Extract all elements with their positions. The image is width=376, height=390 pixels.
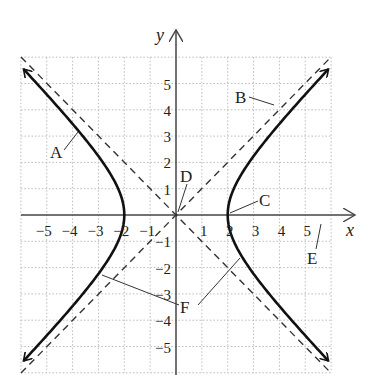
x-tick-label: 3 — [252, 223, 260, 239]
x-axis-label: x — [345, 220, 354, 240]
leader-b — [249, 97, 274, 105]
hyperbola-figure: −5−4−3−2−112345 54321−1−2−3−4−5 x y A B … — [0, 0, 376, 390]
x-tick-label: −5 — [36, 223, 52, 239]
x-tick-label: 4 — [278, 223, 286, 239]
y-tick-label: 4 — [164, 103, 172, 119]
label-f: F — [180, 298, 189, 317]
x-tick-label: 1 — [200, 223, 208, 239]
x-tick-label: −4 — [62, 223, 78, 239]
x-tick-label: −1 — [139, 223, 155, 239]
y-axis-label: y — [154, 25, 164, 45]
x-tick-label: −3 — [87, 223, 103, 239]
leader-f2 — [198, 258, 240, 305]
y-tick-label: 5 — [164, 77, 172, 93]
x-tick-label: 2 — [226, 223, 234, 239]
leader-lines — [64, 97, 321, 305]
y-tick-label: 3 — [164, 129, 172, 145]
x-tick-label: 5 — [304, 223, 312, 239]
leader-a — [64, 132, 78, 150]
y-tick-label: −2 — [155, 261, 171, 277]
x-tick-labels: −5−4−3−2−112345 — [36, 223, 311, 239]
y-tick-label: −5 — [155, 340, 171, 356]
leader-e — [316, 224, 321, 249]
label-c: C — [259, 191, 270, 210]
y-tick-label: 1 — [164, 182, 172, 198]
label-b: B — [235, 88, 246, 107]
y-tick-label: 2 — [164, 155, 172, 171]
y-tick-labels: 54321−1−2−3−4−5 — [155, 77, 171, 356]
left-branch-upper — [24, 69, 125, 215]
label-a: A — [50, 143, 63, 162]
y-tick-label: −4 — [155, 313, 171, 329]
y-tick-label: −1 — [155, 234, 171, 250]
label-d: D — [180, 167, 192, 186]
label-e: E — [307, 249, 317, 268]
x-tick-label: −2 — [113, 223, 129, 239]
